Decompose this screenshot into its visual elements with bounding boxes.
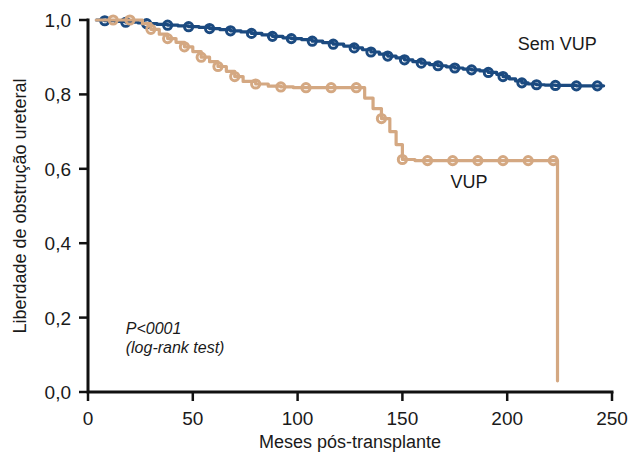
y-axis-title: Liberdade de obstrução ureteral bbox=[10, 78, 30, 333]
series-label-vup: VUP bbox=[451, 172, 488, 192]
x-tick-label: 50 bbox=[182, 408, 203, 429]
x-tick-label: 0 bbox=[83, 408, 94, 429]
kaplan-meier-chart: 0,00,20,40,60,81,0 050100150200250 Liber… bbox=[0, 0, 630, 454]
x-tick-label: 100 bbox=[282, 408, 314, 429]
x-axis-title: Meses pós-transplante bbox=[259, 432, 441, 452]
y-tick-labels: 0,00,20,40,60,81,0 bbox=[45, 10, 72, 403]
x-tick-labels: 050100150200250 bbox=[83, 408, 628, 429]
y-tick-label: 0,2 bbox=[45, 308, 71, 329]
statistics-annotation: P<0001(log-rank test) bbox=[126, 320, 225, 356]
x-tick-label: 200 bbox=[491, 408, 523, 429]
series-label-sem-vup: Sem VUP bbox=[518, 34, 597, 54]
y-tick-label: 0,6 bbox=[45, 159, 71, 180]
annotation-p-value: P<0001 bbox=[126, 320, 182, 337]
y-tick-label: 0,4 bbox=[45, 233, 72, 254]
y-tick-label: 0,8 bbox=[45, 84, 71, 105]
y-tick-label: 1,0 bbox=[45, 10, 71, 31]
chart-canvas: 0,00,20,40,60,81,0 050100150200250 Liber… bbox=[0, 0, 630, 454]
series-inline-labels: Sem VUPVUP bbox=[451, 34, 597, 192]
x-tick-label: 250 bbox=[596, 408, 628, 429]
y-tick-label: 0,0 bbox=[45, 382, 71, 403]
x-tick-label: 150 bbox=[387, 408, 419, 429]
annotation-test-name: (log-rank test) bbox=[126, 339, 225, 356]
